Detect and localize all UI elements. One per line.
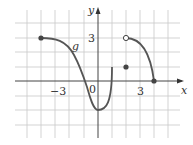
y-axis-label: y	[87, 4, 95, 17]
x-tick-0: 0	[89, 83, 96, 96]
y-tick-3: 3	[88, 32, 95, 45]
x-axis-label: x	[181, 84, 188, 97]
filled-endpoint	[123, 64, 128, 69]
x-tick-neg3: −3	[50, 85, 66, 98]
function-graph: y x g −3 0 3 3	[0, 0, 193, 145]
x-axis-arrow-icon	[177, 79, 184, 84]
function-label: g	[72, 40, 79, 53]
open-endpoint	[123, 35, 128, 40]
filled-endpoint	[38, 35, 43, 40]
filled-endpoint	[151, 78, 156, 83]
x-tick-3: 3	[137, 85, 144, 98]
y-axis-arrow-icon	[96, 7, 101, 14]
